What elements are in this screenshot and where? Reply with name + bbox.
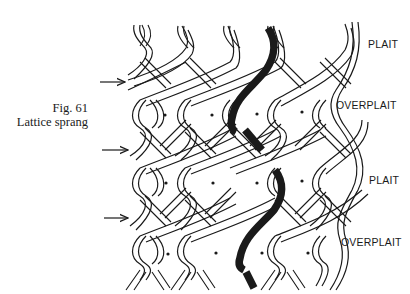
row-arrows (100, 82, 128, 218)
lattice-sprang-diagram (0, 0, 410, 294)
